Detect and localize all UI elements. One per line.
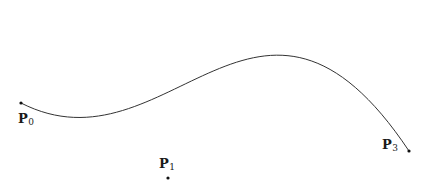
point-p3-marker: [407, 149, 410, 152]
point-p1-marker: [166, 176, 169, 179]
point-p0-marker: [19, 101, 22, 104]
bezier-curve: [21, 55, 409, 151]
control-points: P0P1P3: [18, 101, 411, 179]
point-p3-label: P3: [382, 137, 398, 153]
bezier-diagram: P0P1P3: [0, 0, 431, 185]
point-p1-label: P1: [159, 156, 175, 172]
point-p0-label: P0: [18, 111, 34, 127]
